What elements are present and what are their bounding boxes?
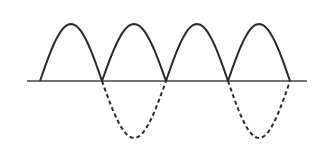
positive-hump: [166, 24, 228, 81]
rectified-humps: [40, 24, 290, 81]
negative-lobe-dashed: [102, 81, 166, 138]
positive-hump: [40, 24, 102, 81]
negative-lobe-dashed: [228, 81, 290, 138]
waveform-svg: [0, 0, 316, 150]
positive-hump: [102, 24, 166, 81]
rectified-waveform-diagram: [0, 0, 316, 150]
positive-hump: [228, 24, 290, 81]
negative-half-cycles-dashed: [102, 81, 290, 138]
